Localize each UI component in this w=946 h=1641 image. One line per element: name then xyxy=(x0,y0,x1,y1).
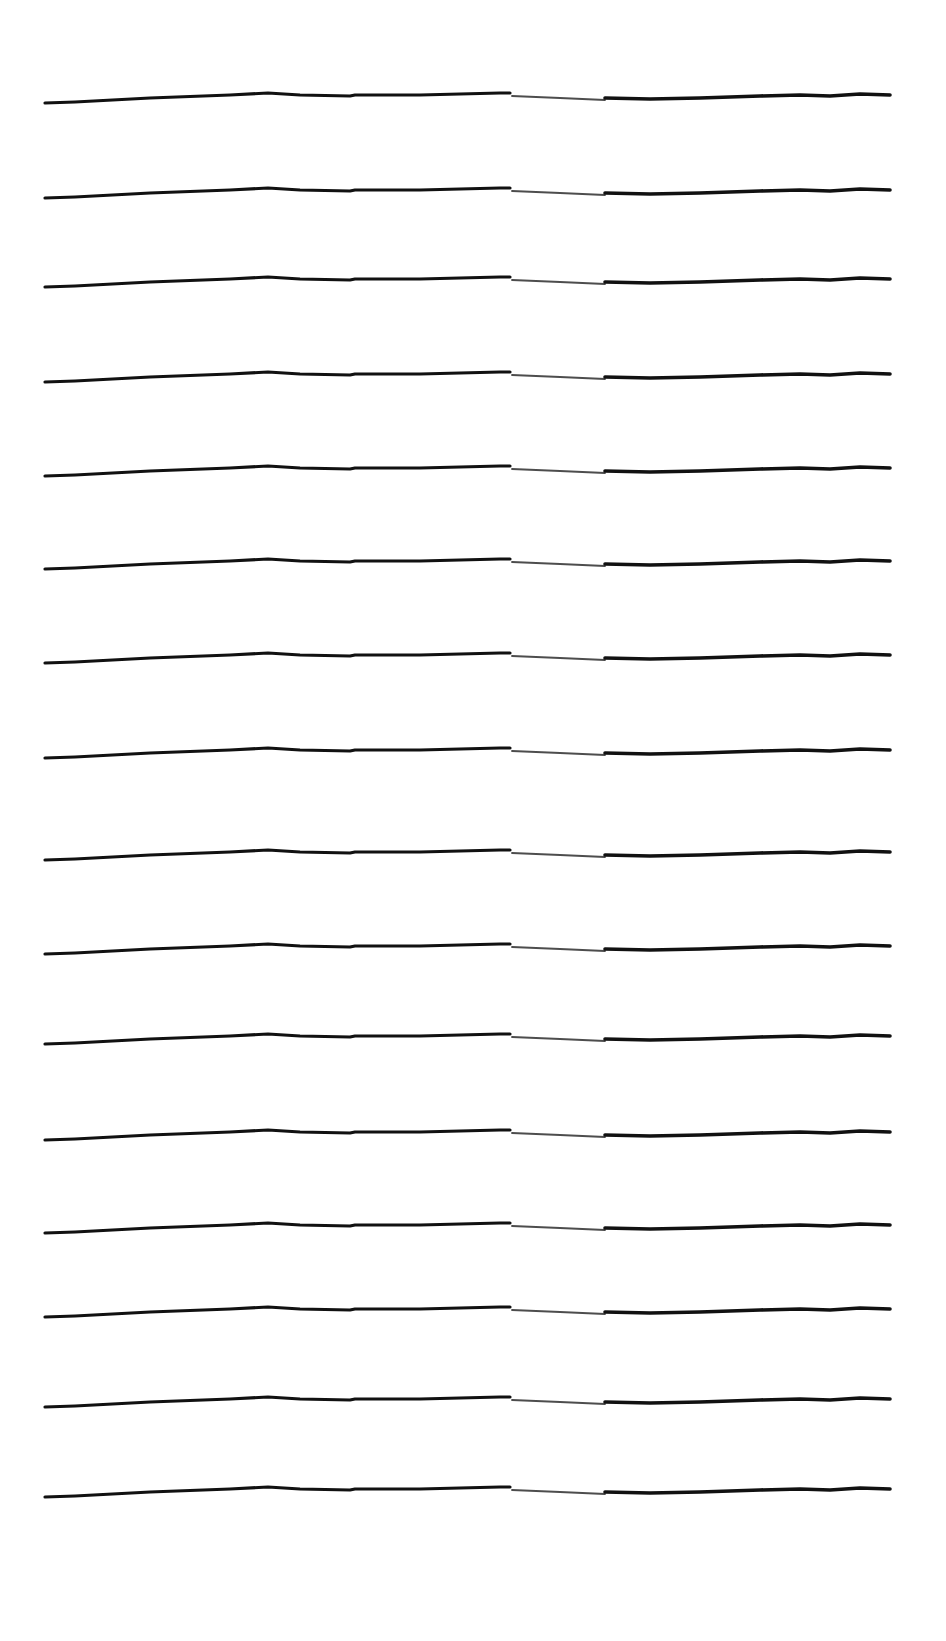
ruled-line xyxy=(0,86,946,116)
lined-page xyxy=(0,0,946,1641)
ruled-line xyxy=(0,937,946,967)
ruled-line xyxy=(0,1216,946,1246)
ruled-line xyxy=(0,1123,946,1153)
ruled-line xyxy=(0,1027,946,1057)
ruled-line xyxy=(0,459,946,489)
ruled-line xyxy=(0,552,946,582)
ruled-line xyxy=(0,1480,946,1510)
ruled-line xyxy=(0,181,946,211)
ruled-line xyxy=(0,270,946,300)
ruled-line xyxy=(0,1300,946,1330)
ruled-line xyxy=(0,1390,946,1420)
ruled-line xyxy=(0,646,946,676)
ruled-line xyxy=(0,365,946,395)
ruled-line xyxy=(0,843,946,873)
ruled-line xyxy=(0,741,946,771)
